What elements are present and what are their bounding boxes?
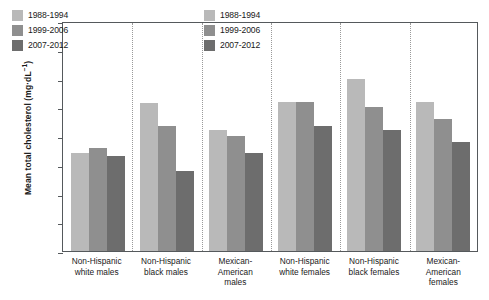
x-axis-label-line: Mexican- xyxy=(202,256,269,267)
x-axis-label-line: white males xyxy=(63,267,130,278)
x-axis-label-line: Non-Hispanic xyxy=(63,256,130,267)
bar[interactable] xyxy=(296,102,314,252)
x-axis-label: Non-Hispanicblack females xyxy=(339,256,408,298)
bar[interactable] xyxy=(245,153,263,251)
legend-label: 2007-2012 xyxy=(28,41,68,50)
bar-group xyxy=(63,23,132,251)
legend-entry[interactable]: 2007-2012 xyxy=(204,38,260,53)
legend-left: 1988-19941999-20062007-2012 xyxy=(12,8,68,53)
bar-group xyxy=(270,23,339,251)
bar[interactable] xyxy=(107,156,125,251)
legend-label: 1999-2006 xyxy=(28,26,68,35)
bar[interactable] xyxy=(140,103,158,251)
plot-area: 180175170165160155150145140 xyxy=(62,22,478,252)
x-axis-label-line: Non-Hispanic xyxy=(132,256,199,267)
bar[interactable] xyxy=(452,142,470,251)
legend-right: 1988-19941999-20062007-2012 xyxy=(204,8,260,53)
legend-swatch xyxy=(204,10,215,21)
x-axis-label-line: white females xyxy=(271,267,338,278)
bar[interactable] xyxy=(347,79,365,252)
x-axis-label-line: Non-Hispanic xyxy=(340,256,407,267)
x-axis-label: Non-Hispanicwhite females xyxy=(270,256,339,298)
x-axis-label-line: black males xyxy=(132,267,199,278)
legend-swatch xyxy=(12,25,23,36)
legend-swatch xyxy=(12,10,23,21)
legend-entry[interactable]: 2007-2012 xyxy=(12,38,68,53)
legend-label: 2007-2012 xyxy=(220,41,260,50)
x-axis-label-line: males xyxy=(202,277,269,288)
x-axis-label-line: Mexican- xyxy=(410,256,477,267)
x-axis-label-line: American xyxy=(410,267,477,278)
bar[interactable] xyxy=(434,119,452,251)
legend-entry[interactable]: 1988-1994 xyxy=(204,8,260,23)
bar-group xyxy=(339,23,408,251)
y-axis-tick xyxy=(58,253,63,254)
x-axis-label: Mexican-Americanmales xyxy=(201,256,270,298)
legend-label: 1988-1994 xyxy=(220,11,260,20)
bar[interactable] xyxy=(314,126,332,251)
bar[interactable] xyxy=(365,107,383,251)
x-axis-labels: Non-Hispanicwhite malesNon-Hispanicblack… xyxy=(62,256,478,298)
x-axis-label-line: black females xyxy=(340,267,407,278)
x-axis-label: Non-Hispanicwhite males xyxy=(62,256,131,298)
bar[interactable] xyxy=(71,153,89,251)
x-axis-label-line: Non-Hispanic xyxy=(271,256,338,267)
legend-entry[interactable]: 1999-2006 xyxy=(204,23,260,38)
bar-groups xyxy=(63,23,477,251)
legend-label: 1999-2006 xyxy=(220,26,260,35)
bar[interactable] xyxy=(227,136,245,251)
y-axis-title-exponent: −1 xyxy=(21,64,28,72)
bar[interactable] xyxy=(176,171,194,252)
y-axis-title: Mean total cholesterol (mg·dL−1) xyxy=(21,38,33,218)
bar[interactable] xyxy=(278,102,296,252)
bar[interactable] xyxy=(416,102,434,252)
legend-swatch xyxy=(12,40,23,51)
bar[interactable] xyxy=(89,148,107,252)
bar-group xyxy=(132,23,201,251)
legend-label: 1988-1994 xyxy=(28,11,68,20)
chart-root: Mean total cholesterol (mg·dL−1) 1801751… xyxy=(0,0,489,300)
bar-group xyxy=(408,23,477,251)
bar-group xyxy=(201,23,270,251)
bar[interactable] xyxy=(383,130,401,251)
x-axis-label-line: females xyxy=(410,277,477,288)
legend-swatch xyxy=(204,25,215,36)
legend-swatch xyxy=(204,40,215,51)
x-axis-label: Non-Hispanicblack males xyxy=(131,256,200,298)
y-axis-title-tail: ) xyxy=(23,61,33,64)
x-axis-label: Mexican-Americanfemales xyxy=(409,256,478,298)
legend-entry[interactable]: 1988-1994 xyxy=(12,8,68,23)
legend-entry[interactable]: 1999-2006 xyxy=(12,23,68,38)
bar[interactable] xyxy=(209,130,227,251)
y-axis-title-text: Mean total cholesterol (mg·dL xyxy=(23,71,33,195)
x-axis-label-line: American xyxy=(202,267,269,278)
bar[interactable] xyxy=(158,126,176,251)
